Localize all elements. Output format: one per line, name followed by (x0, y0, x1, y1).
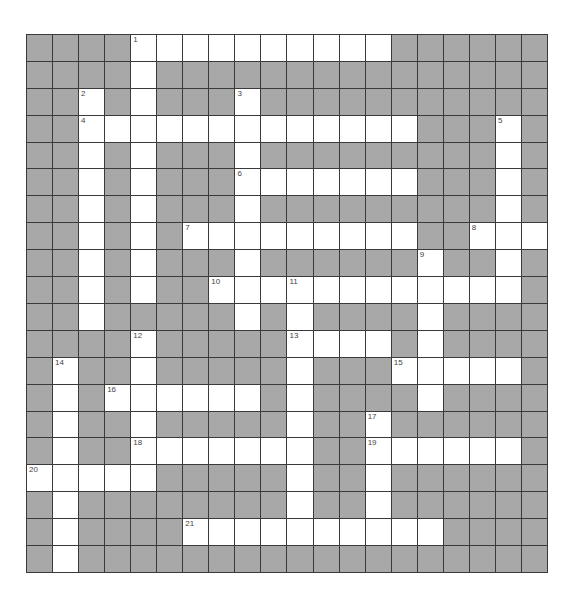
crossword-cell[interactable] (53, 385, 79, 412)
crossword-cell[interactable] (392, 277, 418, 304)
crossword-cell[interactable] (287, 438, 313, 465)
crossword-cell[interactable]: 4 (79, 116, 105, 143)
crossword-cell[interactable] (235, 116, 261, 143)
crossword-cell[interactable] (105, 465, 131, 492)
crossword-cell[interactable] (340, 223, 366, 250)
crossword-cell[interactable] (496, 277, 522, 304)
crossword-cell[interactable] (131, 169, 157, 196)
crossword-cell[interactable] (235, 385, 261, 412)
crossword-cell[interactable]: 8 (470, 223, 496, 250)
crossword-cell[interactable] (314, 277, 340, 304)
crossword-cell[interactable] (105, 116, 131, 143)
crossword-cell[interactable] (157, 35, 183, 62)
crossword-cell[interactable] (209, 519, 235, 546)
crossword-cell[interactable] (209, 438, 235, 465)
crossword-cell[interactable] (53, 492, 79, 519)
crossword-cell[interactable] (79, 143, 105, 170)
crossword-cell[interactable] (209, 223, 235, 250)
crossword-cell[interactable] (235, 35, 261, 62)
crossword-cell[interactable]: 13 (287, 331, 313, 358)
crossword-cell[interactable] (340, 331, 366, 358)
crossword-cell[interactable] (366, 492, 392, 519)
crossword-cell[interactable] (418, 304, 444, 331)
crossword-cell[interactable] (392, 223, 418, 250)
crossword-cell[interactable] (287, 519, 313, 546)
crossword-cell[interactable]: 7 (183, 223, 209, 250)
crossword-cell[interactable] (392, 116, 418, 143)
crossword-cell[interactable] (79, 304, 105, 331)
crossword-cell[interactable] (79, 250, 105, 277)
crossword-cell[interactable]: 1 (131, 35, 157, 62)
crossword-cell[interactable] (314, 223, 340, 250)
crossword-cell[interactable] (261, 223, 287, 250)
crossword-cell[interactable] (418, 385, 444, 412)
crossword-cell[interactable]: 18 (131, 438, 157, 465)
crossword-cell[interactable] (183, 438, 209, 465)
crossword-cell[interactable] (235, 304, 261, 331)
crossword-cell[interactable]: 6 (235, 169, 261, 196)
crossword-cell[interactable] (418, 438, 444, 465)
crossword-cell[interactable] (131, 250, 157, 277)
crossword-cell[interactable] (131, 412, 157, 439)
crossword-cell[interactable]: 5 (496, 116, 522, 143)
crossword-cell[interactable] (53, 546, 79, 573)
crossword-cell[interactable] (235, 196, 261, 223)
crossword-cell[interactable] (287, 412, 313, 439)
crossword-cell[interactable]: 12 (131, 331, 157, 358)
crossword-cell[interactable] (287, 223, 313, 250)
crossword-cell[interactable] (53, 465, 79, 492)
crossword-cell[interactable] (79, 277, 105, 304)
crossword-cell[interactable] (366, 35, 392, 62)
crossword-cell[interactable] (444, 438, 470, 465)
crossword-cell[interactable] (366, 519, 392, 546)
crossword-cell[interactable] (496, 196, 522, 223)
crossword-cell[interactable] (79, 223, 105, 250)
crossword-cell[interactable] (183, 116, 209, 143)
crossword-cell[interactable] (287, 169, 313, 196)
crossword-cell[interactable] (131, 465, 157, 492)
crossword-cell[interactable] (53, 412, 79, 439)
crossword-cell[interactable]: 15 (392, 358, 418, 385)
crossword-cell[interactable] (79, 465, 105, 492)
crossword-cell[interactable]: 3 (235, 89, 261, 116)
crossword-cell[interactable] (79, 196, 105, 223)
crossword-cell[interactable] (287, 385, 313, 412)
crossword-cell[interactable] (366, 223, 392, 250)
crossword-cell[interactable] (366, 169, 392, 196)
crossword-cell[interactable] (287, 358, 313, 385)
crossword-cell[interactable]: 14 (53, 358, 79, 385)
crossword-cell[interactable] (131, 358, 157, 385)
crossword-cell[interactable] (340, 169, 366, 196)
crossword-cell[interactable] (496, 358, 522, 385)
crossword-cell[interactable] (314, 331, 340, 358)
crossword-cell[interactable] (261, 35, 287, 62)
crossword-cell[interactable] (470, 438, 496, 465)
crossword-cell[interactable] (496, 223, 522, 250)
crossword-cell[interactable]: 2 (79, 89, 105, 116)
crossword-cell[interactable] (392, 169, 418, 196)
crossword-cell[interactable] (366, 465, 392, 492)
crossword-cell[interactable] (287, 116, 313, 143)
crossword-cell[interactable] (496, 250, 522, 277)
crossword-cell[interactable] (131, 116, 157, 143)
crossword-cell[interactable]: 9 (418, 250, 444, 277)
crossword-cell[interactable] (287, 35, 313, 62)
crossword-cell[interactable] (496, 169, 522, 196)
crossword-cell[interactable]: 21 (183, 519, 209, 546)
crossword-cell[interactable]: 20 (27, 465, 53, 492)
crossword-cell[interactable]: 10 (209, 277, 235, 304)
crossword-cell[interactable] (131, 62, 157, 89)
crossword-cell[interactable] (261, 438, 287, 465)
crossword-cell[interactable] (131, 277, 157, 304)
crossword-cell[interactable] (470, 277, 496, 304)
crossword-cell[interactable] (209, 35, 235, 62)
crossword-cell[interactable] (261, 519, 287, 546)
crossword-cell[interactable] (314, 35, 340, 62)
crossword-cell[interactable] (235, 438, 261, 465)
crossword-cell[interactable] (287, 304, 313, 331)
crossword-cell[interactable]: 17 (366, 412, 392, 439)
crossword-cell[interactable] (183, 35, 209, 62)
crossword-cell[interactable] (235, 143, 261, 170)
crossword-cell[interactable] (131, 89, 157, 116)
crossword-cell[interactable] (392, 519, 418, 546)
